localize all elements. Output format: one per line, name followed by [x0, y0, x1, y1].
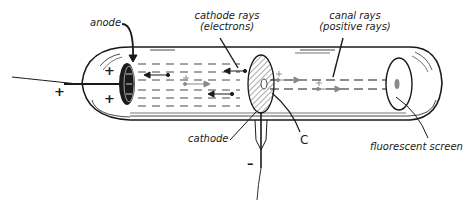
- fluorescent-screen: [386, 58, 412, 110]
- canal-rays-label: canal rays (positive rays): [310, 10, 400, 32]
- anode-plus-bottom-sign: +: [104, 92, 115, 105]
- cathode-disc: [248, 55, 274, 113]
- anode-plus-top-sign: +: [104, 64, 115, 77]
- positive-arrows-left: [184, 81, 211, 87]
- positive-arrows-right: [277, 77, 342, 92]
- cathode-label: cathode: [188, 133, 229, 144]
- anode-label: anode: [90, 17, 121, 28]
- wire-plus-sign: +: [54, 85, 65, 98]
- diagram-canvas: anode cathode rays (electrons) canal ray…: [0, 0, 464, 207]
- cathode-rays-label: cathode rays (electrons): [182, 10, 272, 32]
- cathode-rays-label-line2: (electrons): [200, 21, 254, 32]
- cathode-rays-label-line1: cathode rays: [194, 10, 259, 21]
- anode-wire: [12, 77, 120, 84]
- anode-disc: [119, 63, 135, 105]
- canal-ray-beams: [270, 80, 388, 89]
- canal-rays-label-line2: (positive rays): [319, 21, 391, 32]
- leader-lines: [122, 24, 428, 140]
- cathode-stem: [255, 112, 267, 200]
- fluorescent-screen-label: fluorescent screen: [370, 141, 463, 152]
- c-label: C: [300, 135, 308, 146]
- cathode-minus-sign: –: [247, 157, 254, 170]
- canal-rays-label-line1: canal rays: [329, 10, 380, 21]
